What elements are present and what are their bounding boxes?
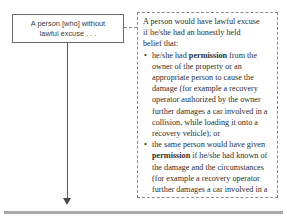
page-divider-rule xyxy=(4,211,283,214)
annotation-lead-line2: if he/she had an honestly held xyxy=(143,28,241,37)
bullet-1-part1: the same person would have given xyxy=(152,140,265,149)
annotation-lead: A person would have lawful excuse if he/… xyxy=(143,16,272,50)
annotation-bullet-list: •he/she had permission from the owner of… xyxy=(143,50,272,198)
dashed-link-icon xyxy=(124,27,137,28)
bullet-0-part1: he/she had xyxy=(152,51,189,60)
annotation-lead-line1: A person would have lawful excuse xyxy=(143,17,260,26)
diagram-canvas: A person [who] without lawful excuse . .… xyxy=(0,0,287,221)
flow-arrow-line xyxy=(67,43,68,202)
node-lawful-excuse[interactable]: A person [who] without lawful excuse . .… xyxy=(12,14,124,43)
list-item: •the same person would have given permis… xyxy=(143,139,272,198)
bullet-0-emphasis: permission xyxy=(189,51,227,60)
bullet-0-part2: from the owner of the property or an app… xyxy=(152,51,268,138)
bullet-1-emphasis: permission xyxy=(152,151,190,160)
annotation-box-lawful-excuse: A person would have lawful excuse if he/… xyxy=(137,12,278,198)
node-label-line2: lawful excuse . . . xyxy=(40,29,97,38)
bullet-icon: • xyxy=(144,50,147,61)
node-label: A person [who] without lawful excuse . .… xyxy=(27,19,109,39)
list-item: •he/she had permission from the owner of… xyxy=(143,50,272,140)
node-label-line1: A person [who] without xyxy=(31,19,105,28)
annotation-lead-line3: belief that: xyxy=(143,39,178,48)
bullet-icon: • xyxy=(144,139,147,150)
down-arrow-icon xyxy=(63,198,71,205)
